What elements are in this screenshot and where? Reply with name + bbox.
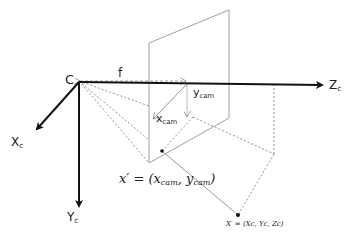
world-point-dot	[236, 213, 240, 217]
image-plane	[149, 10, 229, 163]
image-point-eq-mid: , y	[178, 171, 194, 186]
focal-length-label: f	[118, 67, 122, 79]
image-point-equation: x′ = (xcam, ycam)	[119, 172, 215, 185]
image-x-axis-label: xcam	[156, 113, 177, 124]
axis-z-sub: c	[337, 84, 341, 93]
image-point-eq-end: )	[210, 171, 215, 186]
image-point-eq-part1: x′ = (x	[119, 171, 161, 186]
image-x-main: x	[156, 112, 163, 125]
image-y-axis-label: ycam	[193, 87, 214, 98]
axis-z-line	[79, 82, 322, 85]
image-y-sub: cam	[200, 92, 215, 100]
world-point-equation: X′ = (Xc, Yc, Zc)	[226, 221, 283, 228]
image-point-eq-sub2: cam	[193, 178, 210, 187]
image-y-main: y	[193, 86, 200, 99]
axis-y-sub: c	[74, 216, 78, 225]
axis-x-label: Xc	[11, 136, 23, 148]
camera-center-label: C	[65, 73, 74, 86]
axis-x-sub: c	[19, 141, 23, 150]
camera-axes	[37, 82, 322, 206]
axis-z-label: Zc	[329, 79, 341, 91]
image-point-dot	[160, 149, 164, 153]
image-point-eq-sub1: cam	[161, 178, 178, 187]
axis-x-main: X	[11, 135, 19, 149]
image-x-sub: cam	[163, 118, 178, 126]
axis-z-main: Z	[329, 78, 337, 92]
axis-x-line	[37, 82, 79, 129]
axis-y-label: Yc	[67, 211, 78, 223]
